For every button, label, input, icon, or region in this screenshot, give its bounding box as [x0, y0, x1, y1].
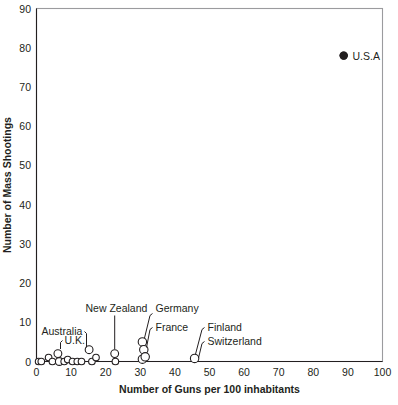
scatter-chart: 90 80 70 60 50 40 30 20 10 0 0 10 20 30 … — [0, 0, 398, 405]
x-tick-label: 60 — [238, 366, 250, 378]
data-point — [49, 358, 56, 365]
x-tick-label: 40 — [169, 366, 181, 378]
y-tick-label: 30 — [19, 238, 31, 250]
y-tick-label: 20 — [19, 277, 31, 289]
data-point — [141, 353, 149, 361]
data-point-new-zealand — [111, 350, 119, 358]
y-tick-label: 40 — [19, 199, 31, 211]
x-tick-label: 100 — [374, 366, 392, 378]
data-point-australia — [54, 350, 62, 358]
annotation-uk: U.K. — [65, 334, 85, 346]
x-axis-title: Number of Guns per 100 inhabitants — [119, 383, 300, 395]
x-tick-labels: 0 10 20 30 40 50 60 70 80 90 100 — [34, 366, 392, 378]
x-tick-label: 30 — [134, 366, 146, 378]
y-tick-label: 70 — [19, 81, 31, 93]
legend-marker-usa — [340, 51, 348, 59]
data-point-germany — [138, 338, 146, 346]
x-tick-label: 50 — [204, 366, 216, 378]
annotation-france: France — [156, 321, 189, 333]
annotation-finland: Finland — [208, 321, 243, 333]
data-point — [78, 358, 85, 365]
y-tick-label: 50 — [19, 159, 31, 171]
y-axis-title: Number of Mass Shootings — [1, 117, 13, 253]
annotation-germany: Germany — [156, 302, 200, 314]
data-point — [112, 358, 119, 365]
data-point — [38, 358, 45, 365]
data-point — [93, 354, 100, 361]
x-tick-label: 10 — [65, 366, 77, 378]
x-tick-label: 0 — [34, 366, 40, 378]
y-tick-label: 80 — [19, 42, 31, 54]
legend-label-usa: U.S.A — [353, 50, 380, 62]
annotation-new-zealand: New Zealand — [86, 302, 148, 314]
x-tick-label: 80 — [307, 366, 319, 378]
y-tick-labels: 90 80 70 60 50 40 30 20 10 0 — [19, 3, 31, 368]
x-tick-label: 90 — [342, 366, 354, 378]
y-tick-label: 10 — [19, 316, 31, 328]
x-tick-label: 70 — [273, 366, 285, 378]
y-tick-label: 90 — [19, 3, 31, 15]
data-point-finland-switzerland — [190, 354, 198, 362]
annotation-switzerland: Switzerland — [208, 335, 262, 347]
y-tick-label: 60 — [19, 120, 31, 132]
chart-svg: 90 80 70 60 50 40 30 20 10 0 0 10 20 30 … — [0, 0, 398, 405]
x-tick-label: 20 — [100, 366, 112, 378]
y-tick-label: 0 — [25, 356, 31, 368]
